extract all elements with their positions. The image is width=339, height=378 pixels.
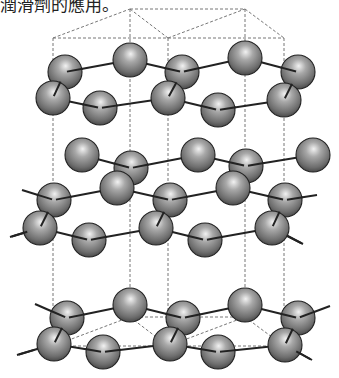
carbon-atom	[181, 138, 215, 172]
unit-cell-edge	[245, 9, 284, 38]
carbon-atom	[83, 91, 117, 125]
carbon-atom	[228, 41, 262, 75]
middle-layer	[10, 138, 330, 257]
unit-cell-edge	[130, 9, 168, 38]
bond-stub	[287, 236, 301, 243]
carbon-atom	[216, 171, 250, 205]
graphite-structure-diagram	[0, 0, 339, 378]
carbon-atom	[151, 81, 185, 115]
carbon-atom	[72, 223, 106, 257]
carbon-atom	[37, 327, 71, 361]
carbon-atom	[100, 171, 134, 205]
carbon-atom	[201, 335, 235, 369]
carbon-atom	[113, 288, 147, 322]
atom-layers	[10, 41, 330, 369]
carbon-atom	[139, 211, 173, 245]
top-layer	[36, 41, 315, 127]
carbon-atom	[23, 211, 57, 245]
carbon-atom	[65, 138, 99, 172]
carbon-atom	[153, 327, 187, 361]
carbon-atom	[113, 43, 147, 77]
carbon-atom	[268, 328, 302, 362]
carbon-atom	[201, 93, 235, 127]
bond-stub	[19, 350, 34, 355]
unit-cell-edge	[53, 9, 130, 38]
carbon-atom	[36, 81, 70, 115]
carbon-atom	[188, 223, 222, 257]
bottom-layer	[17, 288, 330, 369]
carbon-atom	[255, 211, 289, 245]
carbon-atom	[86, 335, 120, 369]
carbon-atom	[228, 288, 262, 322]
unit-cell-edge	[168, 9, 245, 38]
carbon-atom	[296, 138, 330, 172]
carbon-atom	[267, 83, 301, 117]
